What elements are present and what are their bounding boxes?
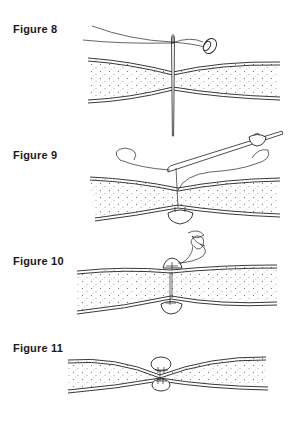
- needle-icon: [172, 35, 175, 137]
- button-icon: [163, 258, 182, 270]
- button-icon: [151, 357, 171, 373]
- illustration-canvas: [0, 0, 296, 428]
- figure-11-diagram: [68, 357, 268, 393]
- button-icon: [201, 36, 219, 56]
- figure-8-diagram: [83, 26, 280, 136]
- figure-9-diagram: [90, 131, 283, 246]
- figure-10-diagram: [77, 236, 277, 314]
